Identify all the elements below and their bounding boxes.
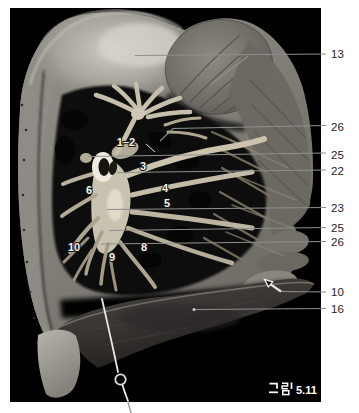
right-label-22: 22 <box>331 165 344 177</box>
specimen-label-9: 9 <box>109 251 115 263</box>
right-label-10: 10 <box>331 286 344 298</box>
right-label-25-upper: 25 <box>331 149 344 161</box>
specimen-photo: 5.11 <box>10 8 321 413</box>
right-label-26-upper: 26 <box>331 121 344 133</box>
right-label-25-lower: 25 <box>331 222 344 234</box>
right-label-23: 23 <box>331 202 344 214</box>
specimen-label-1-2: 1–2 <box>117 136 135 148</box>
specimen-label-4: 4 <box>162 182 169 194</box>
figure-caption-number: 5.11 <box>296 384 317 396</box>
right-label-26-lower: 26 <box>331 236 344 248</box>
figure-page: 그림 5.11 <box>0 0 359 413</box>
specimen-label-8: 8 <box>141 241 147 253</box>
right-label-13: 13 <box>331 48 344 60</box>
leader-endpoint-dot-16 <box>192 308 195 311</box>
specimen-label-3: 3 <box>140 160 146 172</box>
specimen-label-5: 5 <box>164 197 170 209</box>
leader-line-10 <box>281 292 326 293</box>
right-label-16: 16 <box>331 303 344 315</box>
anatomy-figure: 5.11 13 26 25 22 23 25 26 10 16 1–2 3 <box>0 0 359 413</box>
specimen-label-10: 10 <box>68 241 80 253</box>
specimen-label-6: 6 <box>86 184 92 196</box>
